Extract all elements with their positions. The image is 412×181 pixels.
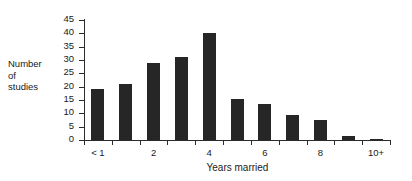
bar: [370, 139, 383, 140]
x-axis-tick-label: 6: [240, 147, 290, 158]
x-axis-tick-mark: [167, 141, 168, 145]
y-axis-tick-label: 40: [63, 27, 74, 37]
y-axis-tick-label: 30: [63, 54, 74, 64]
y-axis-title: Number of studies: [8, 58, 64, 93]
bar: [314, 120, 327, 140]
y-axis-title-line-1: Number: [8, 58, 64, 70]
bar: [175, 57, 188, 140]
x-axis-tick-label: 10+: [351, 147, 401, 158]
y-axis-tick-label: 10: [63, 107, 74, 117]
y-axis-tick-label: 20: [63, 81, 74, 91]
y-axis-tick-label: 25: [63, 67, 74, 77]
bar: [258, 104, 271, 140]
x-axis-line: [84, 140, 391, 141]
bar: [119, 84, 132, 140]
x-axis-tick-mark: [334, 141, 335, 145]
bar: [91, 89, 104, 140]
y-axis-tick-label: 5: [69, 121, 74, 131]
bar: [203, 33, 216, 140]
y-axis-tick-label: 15: [63, 94, 74, 104]
x-axis-tick-mark: [279, 141, 280, 145]
bar: [286, 115, 299, 140]
x-axis-tick-mark: [140, 141, 141, 145]
x-axis-title: Years married: [84, 162, 391, 174]
x-axis-tick-mark: [251, 141, 252, 145]
y-axis-tick-label: 45: [63, 14, 74, 24]
x-axis-tick-mark: [362, 141, 363, 145]
x-axis-tick-mark: [307, 141, 308, 145]
x-axis-tick-mark: [195, 141, 196, 145]
plot-area: [84, 20, 390, 140]
y-axis-tick-label: 35: [63, 41, 74, 51]
x-axis-tick-mark: [84, 141, 85, 145]
y-axis-title-line-3: studies: [8, 81, 64, 93]
x-axis-tick-mark: [223, 141, 224, 145]
bar: [147, 63, 160, 140]
x-axis-tick-label: 4: [184, 147, 234, 158]
bar: [231, 99, 244, 140]
x-axis-tick-mark: [390, 141, 391, 145]
x-axis-tick-label: < 1: [73, 147, 123, 158]
bar: [342, 136, 355, 140]
x-axis-tick-label: 2: [129, 147, 179, 158]
y-axis-tick-label: 0: [69, 134, 74, 144]
y-axis-title-line-2: of: [8, 70, 64, 82]
x-axis-tick-mark: [112, 141, 113, 145]
x-axis-tick-label: 8: [295, 147, 345, 158]
bar-chart-figure: Number of studies 051015202530354045 < 1…: [0, 0, 412, 181]
